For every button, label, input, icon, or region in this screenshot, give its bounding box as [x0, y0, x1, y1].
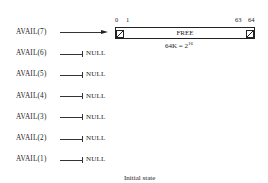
tag-bit-left-icon [116, 30, 124, 38]
index-0: 0 [115, 16, 118, 23]
null-terminator-icon [82, 72, 83, 78]
null-label: NULL [86, 113, 105, 121]
avail-6-line [60, 54, 82, 55]
null-terminator-icon [82, 114, 83, 120]
avail-4-line [60, 96, 82, 97]
avail-1-line [60, 160, 82, 161]
index-64: 64 [248, 16, 255, 23]
avail-3-label: AVAIL(3) [16, 113, 46, 121]
free-label: FREE [116, 28, 254, 38]
avail-5-line [60, 75, 82, 76]
null-terminator-icon [82, 93, 83, 99]
null-terminator-icon [82, 157, 83, 163]
formula-base: 64K = 2 [165, 42, 188, 50]
avail-4-label: AVAIL(4) [16, 92, 46, 100]
index-1: 1 [126, 16, 129, 23]
index-63: 63 [235, 16, 242, 23]
null-terminator-icon [82, 136, 83, 142]
avail-5-label: AVAIL(5) [16, 70, 46, 78]
null-label: NULL [86, 155, 105, 163]
free-block: FREE [115, 27, 255, 39]
formula-exponent: 16 [188, 41, 193, 46]
block-size-formula: 64K = 216 [165, 41, 193, 50]
avail-2-label: AVAIL(2) [16, 134, 46, 142]
avail-1-label: AVAIL(1) [16, 155, 46, 163]
arrowhead-icon [101, 30, 108, 34]
tag-bit-right-icon [246, 30, 254, 38]
avail-3-line [60, 117, 82, 118]
null-terminator-icon [82, 51, 83, 57]
null-label: NULL [86, 92, 105, 100]
null-label: NULL [86, 70, 105, 78]
avail-7-label: AVAIL(7) [16, 28, 46, 36]
avail-2-line [60, 139, 82, 140]
figure-caption: Initial state [124, 174, 155, 182]
avail-7-arrow-line [60, 32, 102, 33]
null-label: NULL [86, 49, 105, 57]
null-label: NULL [86, 134, 105, 142]
avail-6-label: AVAIL(6) [16, 49, 46, 57]
